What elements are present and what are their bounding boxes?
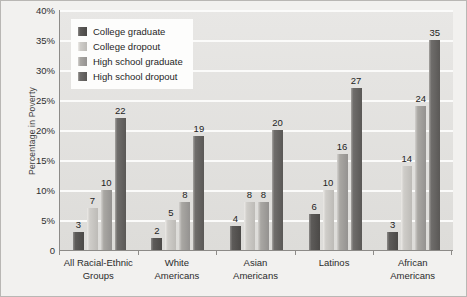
legend-swatch-icon (78, 27, 87, 36)
bar-slot: 19 (193, 136, 204, 250)
bar[interactable]: 24 (415, 106, 426, 250)
bar-value-label: 27 (351, 75, 362, 86)
category-label-line: White (138, 257, 217, 270)
bar[interactable]: 16 (337, 154, 348, 250)
bar-value-label: 8 (247, 189, 252, 200)
legend: College graduateCollege dropoutHigh scho… (71, 19, 193, 89)
bar-slot: 3 (387, 232, 398, 250)
legend-swatch-icon (78, 42, 87, 51)
legend-swatch-icon (78, 57, 87, 66)
bar-group: 48820 (217, 10, 296, 250)
bar-value-label: 5 (168, 207, 173, 218)
x-axis-tick-mark (59, 250, 60, 255)
legend-label: High school dropout (93, 71, 178, 82)
bar[interactable]: 27 (351, 88, 362, 250)
bar-slot: 3 (73, 232, 84, 250)
x-axis-tick-mark (138, 250, 139, 255)
bar-value-label: 16 (337, 141, 348, 152)
bar-value-label: 19 (194, 123, 205, 134)
bar-slot: 2 (151, 238, 162, 250)
bar[interactable]: 8 (258, 202, 269, 250)
bar[interactable]: 19 (193, 136, 204, 250)
bar-slot: 10 (323, 190, 334, 250)
bar[interactable]: 4 (230, 226, 241, 250)
x-axis-category-label: Latinos (295, 257, 374, 293)
category-label-line: Americans (373, 270, 452, 283)
y-axis-tick-label: 30% (15, 65, 55, 76)
legend-label: College graduate (93, 26, 165, 37)
x-axis-category-label: WhiteAmericans (138, 257, 217, 293)
y-axis-tick-label: 5% (15, 215, 55, 226)
category-label-line: Latinos (295, 257, 374, 270)
y-axis-tick-label: 15% (15, 155, 55, 166)
bar-value-label: 14 (401, 153, 412, 164)
bar-slot: 16 (337, 154, 348, 250)
legend-item[interactable]: High school dropout (78, 70, 183, 83)
x-axis-tick-mark (373, 250, 374, 255)
bar[interactable]: 20 (272, 130, 283, 250)
bar-slot: 10 (101, 190, 112, 250)
category-label-line: Americans (138, 270, 217, 283)
bar[interactable]: 10 (101, 190, 112, 250)
bar-group: 3142435 (374, 10, 453, 250)
bar-slot: 14 (401, 166, 412, 250)
bar[interactable]: 10 (323, 190, 334, 250)
bar[interactable]: 8 (179, 202, 190, 250)
bar[interactable]: 8 (244, 202, 255, 250)
bar-value-label: 4 (233, 213, 238, 224)
bar[interactable]: 35 (429, 40, 440, 250)
legend-item[interactable]: High school graduate (78, 55, 183, 68)
chart-figure: Percentage in Poverty 40%35%30%25%20%15%… (0, 0, 467, 297)
bar-value-label: 3 (390, 219, 395, 230)
x-axis-category-labels: All Racial-EthnicGroupsWhiteAmericansAsi… (59, 257, 452, 293)
category-label-line: Groups (59, 270, 138, 283)
bar-slot: 8 (179, 202, 190, 250)
bar[interactable]: 14 (401, 166, 412, 250)
bar[interactable]: 5 (165, 220, 176, 250)
bar-value-label: 10 (323, 177, 334, 188)
y-axis-tick-label: 40% (15, 5, 55, 16)
bar[interactable]: 6 (309, 214, 320, 250)
x-axis-tick-mark (295, 250, 296, 255)
bar-slot: 20 (272, 130, 283, 250)
bar[interactable]: 3 (73, 232, 84, 250)
legend-item[interactable]: College dropout (78, 40, 183, 53)
bar-slot: 7 (87, 208, 98, 250)
bar-slot: 35 (429, 40, 440, 250)
y-axis-tick-labels: 40%35%30%25%20%15%10%5%0 (15, 10, 55, 250)
y-axis-tick-label: 25% (15, 95, 55, 106)
bar-value-label: 6 (311, 201, 316, 212)
bar-slot: 24 (415, 106, 426, 250)
y-axis-tick-label: 0 (15, 245, 55, 256)
bar-value-label: 3 (76, 219, 81, 230)
bar-slot: 27 (351, 88, 362, 250)
bar-value-label: 10 (101, 177, 112, 188)
bar-slot: 5 (165, 220, 176, 250)
x-axis-category-label: AsianAmericans (216, 257, 295, 293)
bar-value-label: 20 (272, 117, 283, 128)
x-axis-category-label: All Racial-EthnicGroups (59, 257, 138, 293)
x-axis-category-label: AfricanAmericans (373, 257, 452, 293)
bar[interactable]: 3 (387, 232, 398, 250)
bar-slot: 4 (230, 226, 241, 250)
bar[interactable]: 7 (87, 208, 98, 250)
legend-label: College dropout (93, 41, 160, 52)
x-axis-tick-mark (451, 250, 452, 255)
category-label-line: Americans (216, 270, 295, 283)
y-axis-tick-label: 35% (15, 35, 55, 46)
bar-value-label: 2 (154, 225, 159, 236)
bar-value-label: 24 (415, 93, 426, 104)
bar-slot: 6 (309, 214, 320, 250)
bar-value-label: 8 (182, 189, 187, 200)
bar[interactable]: 2 (151, 238, 162, 250)
category-label-line: All Racial-Ethnic (59, 257, 138, 270)
y-axis-tick-label: 20% (15, 125, 55, 136)
bar-value-label: 8 (261, 189, 266, 200)
bar-slot: 8 (258, 202, 269, 250)
bar-value-label: 35 (429, 27, 440, 38)
bar-value-label: 7 (90, 195, 95, 206)
bar[interactable]: 22 (115, 118, 126, 250)
legend-swatch-icon (78, 72, 87, 81)
legend-item[interactable]: College graduate (78, 25, 183, 38)
category-label-line: Asian (216, 257, 295, 270)
